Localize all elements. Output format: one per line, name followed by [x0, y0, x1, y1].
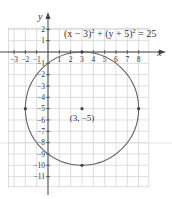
y-tick-label: −7: [37, 127, 45, 136]
y-tick-label: 1: [41, 36, 45, 45]
y-tick-label: −6: [37, 116, 45, 125]
point-marker: [80, 164, 83, 167]
x-tick-label: 3: [80, 55, 84, 64]
x-tick-label: −2: [21, 55, 29, 64]
point-marker: [80, 50, 83, 53]
x-tick-label: −3: [10, 55, 18, 64]
y-tick-label: −3: [37, 82, 45, 91]
point-marker: [137, 107, 140, 110]
y-tick-label: 2: [41, 25, 45, 34]
x-tick-label: 8: [137, 55, 141, 64]
point-marker: [80, 107, 83, 110]
point-marker: [24, 107, 27, 110]
circle-graph: −3−2−11234567821−1−2−3−4−5−6−7−8−9−10−11…: [0, 0, 172, 199]
y-tick-label: −5: [37, 104, 45, 113]
x-axis-title: x: [156, 47, 162, 58]
axes: [0, 12, 166, 195]
y-tick-label: −4: [37, 93, 45, 102]
y-axis-arrow-icon: [46, 12, 51, 19]
x-tick-label: 2: [69, 55, 73, 64]
y-tick-label: −10: [33, 161, 45, 170]
center-label: (3, −5): [70, 113, 95, 123]
y-axis-title: y: [37, 11, 43, 22]
y-tick-label: −8: [37, 138, 45, 147]
y-tick-label: −11: [34, 172, 46, 181]
y-tick-label: −2: [37, 70, 45, 79]
x-tick-label: 4: [91, 55, 95, 64]
equation-label: (x − 3)2 + (y + 5)2 = 25: [64, 27, 156, 40]
tick-labels: −3−2−11234567821−1−2−3−4−5−6−7−8−9−10−11: [10, 25, 141, 181]
x-tick-label: 7: [125, 55, 129, 64]
